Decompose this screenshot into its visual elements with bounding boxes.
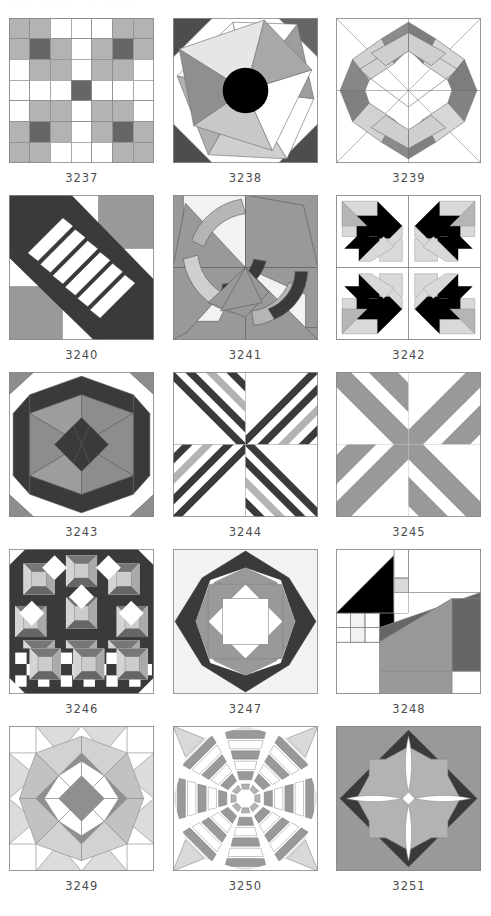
block-caption: 3243 bbox=[65, 527, 98, 539]
quilt-block-3237[interactable] bbox=[9, 18, 154, 163]
quilt-block-3238[interactable] bbox=[173, 18, 318, 163]
block-cell-3237[interactable]: 3237 bbox=[0, 18, 164, 195]
quilt-block-3250[interactable] bbox=[173, 726, 318, 871]
block-caption: 3249 bbox=[65, 881, 98, 893]
block-cell-3245[interactable]: 3245 bbox=[327, 372, 491, 549]
block-caption: 3248 bbox=[392, 704, 425, 716]
block-cell-3247[interactable]: 3247 bbox=[164, 549, 328, 726]
quilt-block-catalog-page: QUILT BLOCK PATTERNS bbox=[0, 0, 491, 916]
masthead-title: QUILT BLOCK PATTERNS bbox=[8, 0, 135, 3]
quilt-block-3251[interactable] bbox=[336, 726, 481, 871]
block-cell-3248[interactable]: 3248 bbox=[327, 549, 491, 726]
block-caption: 3241 bbox=[229, 350, 262, 362]
block-grid: 3237 bbox=[0, 18, 491, 903]
quilt-block-3243[interactable] bbox=[9, 372, 154, 517]
block-cell-3246[interactable]: 3246 bbox=[0, 549, 164, 726]
block-cell-3241[interactable]: 3241 bbox=[164, 195, 328, 372]
block-caption: 3246 bbox=[65, 704, 98, 716]
page-masthead: QUILT BLOCK PATTERNS bbox=[0, 0, 491, 12]
block-caption: 3251 bbox=[392, 881, 425, 893]
block-cell-3238[interactable]: 3238 bbox=[164, 18, 328, 195]
block-caption: 3238 bbox=[229, 173, 262, 185]
block-cell-3242[interactable]: 3242 bbox=[327, 195, 491, 372]
quilt-block-3240[interactable] bbox=[9, 195, 154, 340]
quilt-block-3241[interactable] bbox=[173, 195, 318, 340]
block-caption: 3237 bbox=[65, 173, 98, 185]
quilt-block-3245[interactable] bbox=[336, 372, 481, 517]
block-caption: 3247 bbox=[229, 704, 262, 716]
block-cell-3239[interactable]: 3239 bbox=[327, 18, 491, 195]
block-cell-3249[interactable]: 3249 bbox=[0, 726, 164, 903]
quilt-block-3239[interactable] bbox=[336, 18, 481, 163]
block-caption: 3242 bbox=[392, 350, 425, 362]
quilt-block-3244[interactable] bbox=[173, 372, 318, 517]
block-caption: 3245 bbox=[392, 527, 425, 539]
quilt-block-3242[interactable] bbox=[336, 195, 481, 340]
block-caption: 3244 bbox=[229, 527, 262, 539]
block-cell-3243[interactable]: 3243 bbox=[0, 372, 164, 549]
block-cell-3240[interactable]: 3240 bbox=[0, 195, 164, 372]
block-caption: 3239 bbox=[392, 173, 425, 185]
quilt-block-3249[interactable] bbox=[9, 726, 154, 871]
block-cell-3251[interactable]: 3251 bbox=[327, 726, 491, 903]
block-caption: 3240 bbox=[65, 350, 98, 362]
block-caption: 3250 bbox=[229, 881, 262, 893]
block-cell-3250[interactable]: 3250 bbox=[164, 726, 328, 903]
quilt-block-3246[interactable] bbox=[9, 549, 154, 694]
quilt-block-3247[interactable] bbox=[173, 549, 318, 694]
block-cell-3244[interactable]: 3244 bbox=[164, 372, 328, 549]
quilt-block-3248[interactable] bbox=[336, 549, 481, 694]
